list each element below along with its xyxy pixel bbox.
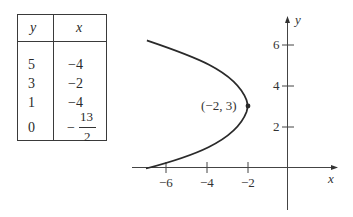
vertex-point bbox=[246, 104, 251, 109]
y-tick-label: 6 bbox=[273, 37, 280, 52]
x-tick-label: −2 bbox=[241, 175, 255, 190]
y-tick-label: 4 bbox=[273, 78, 280, 93]
y-axis-arrow-icon bbox=[285, 16, 290, 23]
x-axis-arrow-icon bbox=[331, 165, 338, 170]
y-tick-label: 2 bbox=[273, 119, 280, 134]
vertex-label: (−2, 3) bbox=[201, 98, 237, 113]
parabola-chart: (−2, 3) −6 −4 −2 2 4 6 x y bbox=[0, 0, 353, 217]
x-tick-label: −4 bbox=[200, 175, 214, 190]
x-tick-label: −6 bbox=[159, 175, 173, 190]
y-axis-label: y bbox=[293, 12, 301, 27]
x-axis-label: x bbox=[327, 171, 334, 186]
